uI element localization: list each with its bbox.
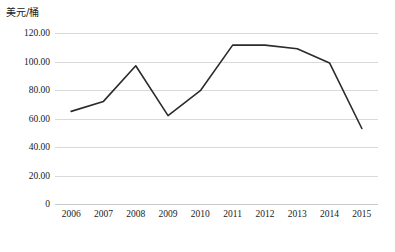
y-axis-tick-label: 60.00 <box>0 114 50 124</box>
x-axis-tick-label: 2009 <box>159 209 178 219</box>
x-axis-tick-label: 2010 <box>191 209 210 219</box>
x-axis-tick-label: 2012 <box>255 209 274 219</box>
y-axis-tick-label: 0 <box>0 199 50 209</box>
y-axis-tick-label: 100.00 <box>0 57 50 67</box>
y-axis-tick-labels: 020.0040.0060.0080.00100.00120.00 <box>0 33 50 204</box>
x-axis-tick-label: 2015 <box>352 209 371 219</box>
x-axis-tick-labels: 2006200720082009201020112012201320142015 <box>55 209 378 229</box>
plot-area <box>55 33 378 204</box>
gridline <box>55 204 378 205</box>
y-axis-tick-label: 20.00 <box>0 171 50 181</box>
x-axis-tick-label: 2008 <box>126 209 145 219</box>
x-axis-tick-label: 2014 <box>320 209 339 219</box>
x-axis-tick-label: 2013 <box>288 209 307 219</box>
y-axis-tick-label: 120.00 <box>0 28 50 38</box>
line-chart: 美元/桶 020.0040.0060.0080.00100.00120.00 2… <box>0 0 395 252</box>
y-axis-unit-label: 美元/桶 <box>6 4 39 19</box>
y-axis-tick-label: 40.00 <box>0 142 50 152</box>
x-axis-tick-label: 2011 <box>223 209 242 219</box>
data-series-line <box>55 33 378 204</box>
y-axis-tick-label: 80.00 <box>0 85 50 95</box>
x-axis-tick-label: 2007 <box>94 209 113 219</box>
x-axis-tick-label: 2006 <box>62 209 81 219</box>
series-polyline <box>71 45 362 128</box>
